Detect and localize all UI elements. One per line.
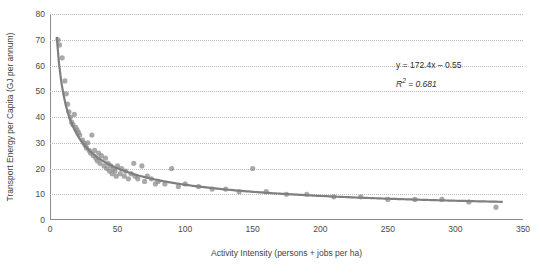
- data-point: [131, 161, 136, 166]
- x-axis-tick-label: 200: [313, 224, 327, 234]
- data-point: [89, 132, 94, 137]
- x-axis-tick-label: 100: [178, 224, 192, 234]
- y-axis-tick-label: 40: [36, 112, 45, 122]
- trendline-equation: y = 172.4x – 0.55: [396, 57, 461, 73]
- y-axis-tick-label: 60: [36, 61, 45, 71]
- plot-area: 01020304050607080 050100150200250300350: [50, 14, 523, 220]
- x-axis-tick-label: 300: [448, 224, 462, 234]
- x-axis-tick-label: 150: [246, 224, 260, 234]
- x-axis-tick-label: 350: [516, 224, 530, 234]
- y-axis-title: Transport Energy per Capita (GJ per annu…: [4, 14, 16, 220]
- y-axis-tick-label: 70: [36, 35, 45, 45]
- y-axis-tick-label: 10: [36, 189, 45, 199]
- data-series-layer: [50, 14, 523, 220]
- data-point: [85, 140, 90, 145]
- data-point: [112, 168, 117, 173]
- data-point: [493, 205, 498, 210]
- chart-container: Transport Energy per Capita (GJ per annu…: [0, 0, 540, 278]
- data-point: [135, 176, 140, 181]
- data-point: [250, 166, 255, 171]
- y-axis-tick-label: 50: [36, 86, 45, 96]
- y-axis-tick-label: 0: [40, 215, 45, 225]
- y-axis-tick-label: 20: [36, 164, 45, 174]
- x-axis-title: Activity Intensity (persons + jobs per h…: [50, 248, 523, 258]
- data-point: [103, 156, 108, 161]
- data-point: [126, 176, 131, 181]
- x-axis-tick-label: 250: [381, 224, 395, 234]
- data-point: [72, 112, 77, 117]
- y-axis-tick-label: 30: [36, 138, 45, 148]
- r-squared-value: = 0.681: [406, 79, 437, 89]
- data-point: [60, 55, 65, 60]
- trendline-r-squared: R2 = 0.681: [396, 73, 461, 92]
- data-point: [139, 163, 144, 168]
- data-point: [62, 78, 67, 83]
- y-axis-title-text: Transport Energy per Capita (GJ per annu…: [5, 33, 15, 202]
- x-axis-tick-label: 0: [48, 224, 53, 234]
- data-point: [142, 179, 147, 184]
- x-axis-tick-label: 50: [113, 224, 122, 234]
- data-point: [169, 166, 174, 171]
- y-axis-tick-label: 80: [36, 9, 45, 19]
- trendline-annotation: y = 172.4x – 0.55 R2 = 0.681: [396, 57, 461, 92]
